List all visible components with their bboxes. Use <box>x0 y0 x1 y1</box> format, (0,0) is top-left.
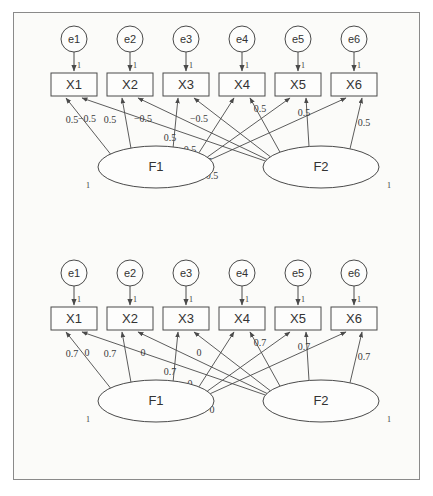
indicator-label-X3: X3 <box>178 311 194 326</box>
indicator-label-X3: X3 <box>178 77 194 92</box>
error-label-e5: e5 <box>292 267 304 279</box>
coef-f2-X4: 0.5 <box>254 103 267 114</box>
coef-f2-X2: 0 <box>141 347 146 358</box>
loading-arrow-f1-X1 <box>66 332 110 388</box>
indicator-label-X5: X5 <box>290 77 306 92</box>
error-loading-e5: 1 <box>301 61 305 70</box>
coef-f1-X2: 0.5 <box>104 114 117 125</box>
factor-label-f1: F1 <box>148 159 163 174</box>
coef-f2-X6: 0.7 <box>358 351 371 362</box>
indicator-label-X4: X4 <box>234 311 250 326</box>
coef-f2-X1: −0.5 <box>78 113 96 124</box>
factor-label-f1: F1 <box>148 393 163 408</box>
indicator-label-X6: X6 <box>346 77 362 92</box>
coef-f1-X1: 0.5 <box>66 114 79 125</box>
coef-f2-X5: 0.7 <box>298 341 311 352</box>
error-loading-e4: 1 <box>245 295 249 304</box>
loading-arrow-f2-X5 <box>306 98 309 146</box>
error-label-e6: e6 <box>348 33 360 45</box>
error-loading-e1: 1 <box>77 61 81 70</box>
error-label-e1: e1 <box>68 33 80 45</box>
indicator-label-X1: X1 <box>66 311 82 326</box>
indicator-label-X2: X2 <box>122 77 138 92</box>
coef-f1-X3: 0.5 <box>164 132 177 143</box>
error-label-e5: e5 <box>292 33 304 45</box>
sem-diagram: 0.50.50.50.50.50.5−0.5−0.5−0.50.50.50.5e… <box>14 13 419 479</box>
factor-variance-f1: 1 <box>86 181 90 190</box>
coef-f1-X3: 0.7 <box>164 366 177 377</box>
coef-f2-X6: 0.5 <box>358 117 371 128</box>
error-loading-e3: 1 <box>189 61 193 70</box>
error-label-e6: e6 <box>348 267 360 279</box>
coef-f2-X2: −0.5 <box>134 113 152 124</box>
loading-arrow-f1-X2 <box>122 332 131 382</box>
error-label-e3: e3 <box>180 33 192 45</box>
error-loading-e1: 1 <box>77 295 81 304</box>
bottom-panel: 0.70.70.70000000.70.70.7e11X1e21X2e31X3e… <box>51 260 391 424</box>
error-loading-e6: 1 <box>357 295 361 304</box>
error-label-e4: e4 <box>236 267 248 279</box>
factor-variance-f2: 1 <box>387 181 391 190</box>
error-loading-e2: 1 <box>133 61 137 70</box>
error-label-e2: e2 <box>124 33 136 45</box>
error-loading-e2: 1 <box>133 295 137 304</box>
factor-label-f2: F2 <box>313 159 328 174</box>
loading-arrow-f1-X1 <box>66 98 110 154</box>
loading-arrow-f2-X5 <box>306 332 309 380</box>
figure-frame: 0.50.50.50.50.50.5−0.5−0.5−0.50.50.50.5e… <box>13 12 420 480</box>
indicator-label-X6: X6 <box>346 311 362 326</box>
loading-arrow-f1-X2 <box>122 98 131 148</box>
factor-label-f2: F2 <box>313 393 328 408</box>
coef-f2-X3: 0 <box>197 347 202 358</box>
indicator-label-X1: X1 <box>66 77 82 92</box>
factor-variance-f1: 1 <box>86 415 90 424</box>
indicator-label-X2: X2 <box>122 311 138 326</box>
coef-f2-X5: 0.5 <box>298 107 311 118</box>
indicator-label-X5: X5 <box>290 311 306 326</box>
coef-f1-X2: 0.7 <box>104 348 117 359</box>
error-loading-e6: 1 <box>357 61 361 70</box>
top-panel: 0.50.50.50.50.50.5−0.5−0.5−0.50.50.50.5e… <box>51 26 391 190</box>
coef-f2-X4: 0.7 <box>254 337 267 348</box>
coef-f2-X1: 0 <box>85 347 90 358</box>
error-loading-e5: 1 <box>301 295 305 304</box>
indicator-label-X4: X4 <box>234 77 250 92</box>
coef-f1-X1: 0.7 <box>66 348 79 359</box>
error-label-e2: e2 <box>124 267 136 279</box>
factor-variance-f2: 1 <box>387 415 391 424</box>
error-loading-e4: 1 <box>245 61 249 70</box>
coef-f2-X3: −0.5 <box>190 113 208 124</box>
error-label-e3: e3 <box>180 267 192 279</box>
error-label-e4: e4 <box>236 33 248 45</box>
error-label-e1: e1 <box>68 267 80 279</box>
error-loading-e3: 1 <box>189 295 193 304</box>
